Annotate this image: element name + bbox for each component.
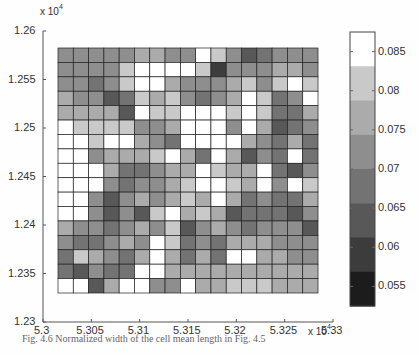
colorbar-segment (350, 101, 375, 136)
colorbar-tick-label: 0.08 (378, 84, 399, 96)
heatmap-cell (89, 235, 104, 249)
heatmap-cell (119, 134, 134, 148)
heatmap-cell (272, 235, 287, 249)
heatmap-cell (196, 235, 211, 249)
y-tick-label: 1.24 (14, 218, 35, 230)
heatmap-cell (150, 120, 165, 134)
heatmap-cell (211, 77, 226, 91)
heatmap-cell (226, 264, 241, 278)
heatmap-cell (287, 250, 302, 264)
heatmap-cell (165, 120, 180, 134)
heatmap-cell (242, 221, 257, 235)
heatmap-cell (150, 178, 165, 192)
heatmap-cell (180, 120, 195, 134)
heatmap-cell (287, 264, 302, 278)
heatmap-cell (104, 192, 119, 206)
heatmap-cell (165, 207, 180, 221)
colorbar-tick-label: 0.075 (378, 123, 406, 135)
heatmap-cell (211, 250, 226, 264)
y-tick-label: 1.245 (8, 170, 36, 182)
heatmap-cell (303, 149, 318, 163)
heatmap-cell (196, 91, 211, 105)
heatmap-cell (196, 264, 211, 278)
heatmap-cell (242, 62, 257, 76)
heatmap-cell (303, 250, 318, 264)
heatmap-cell (89, 106, 104, 120)
heatmap-cell (211, 134, 226, 148)
y-tick-label: 1.25 (14, 121, 35, 133)
heatmap-cell (257, 163, 272, 177)
heatmap-cell (180, 91, 195, 105)
heatmap-cell (272, 48, 287, 62)
heatmap-cell (211, 62, 226, 76)
heatmap-cell (165, 91, 180, 105)
heatmap-cell (104, 134, 119, 148)
heatmap-cell (287, 221, 302, 235)
heatmap-cell (89, 192, 104, 206)
heatmap-cell (196, 163, 211, 177)
heatmap-cell (150, 250, 165, 264)
heatmap-cell (303, 178, 318, 192)
heatmap-cell (119, 192, 134, 206)
heatmap-cell (119, 149, 134, 163)
heatmap-cell (226, 48, 241, 62)
heatmap-cell (119, 221, 134, 235)
heatmap-cell (104, 264, 119, 278)
heatmap-cell (287, 235, 302, 249)
heatmap-cell (73, 192, 88, 206)
heatmap-cell (119, 264, 134, 278)
heatmap-cell (73, 149, 88, 163)
heatmap-cell (104, 207, 119, 221)
colorbar (350, 32, 375, 307)
heatmap-cell (242, 134, 257, 148)
heatmap-cell (180, 163, 195, 177)
heatmap-cell (287, 120, 302, 134)
heatmap-cell (196, 106, 211, 120)
heatmap-cell (89, 77, 104, 91)
heatmap-cell (226, 250, 241, 264)
heatmap-cell (226, 178, 241, 192)
heatmap-cell (242, 207, 257, 221)
heatmap-cell (242, 106, 257, 120)
colorbar-segment (350, 135, 375, 170)
colorbar-tick-label: 0.085 (378, 45, 406, 57)
colorbar-segment (350, 32, 375, 67)
heatmap-cell (58, 250, 73, 264)
heatmap-cell (165, 250, 180, 264)
heatmap-cell (104, 163, 119, 177)
y-tick-label: 1.235 (8, 267, 36, 279)
heatmap-cell (150, 134, 165, 148)
y-tick-label: 1.26 (14, 24, 35, 36)
heatmap-cell (104, 62, 119, 76)
heatmap-cell (180, 106, 195, 120)
x-axis-multiplier: x 104 (308, 325, 331, 337)
heatmap-cell (211, 279, 226, 293)
heatmap-cell (287, 192, 302, 206)
heatmap-cell (165, 264, 180, 278)
heatmap-cell (73, 91, 88, 105)
colorbar-tick-label: 0.06 (378, 240, 399, 252)
colorbar-segment (350, 203, 375, 238)
heatmap-cell (257, 48, 272, 62)
heatmap-cell (165, 48, 180, 62)
heatmap-cell (226, 163, 241, 177)
heatmap-cell (104, 106, 119, 120)
heatmap-cell (180, 77, 195, 91)
heatmap-figure (0, 0, 419, 355)
heatmap-cell (89, 163, 104, 177)
heatmap-cell (134, 279, 149, 293)
heatmap-cell (226, 106, 241, 120)
heatmap-cell (226, 62, 241, 76)
heatmap-cell (119, 91, 134, 105)
heatmap-cell (257, 192, 272, 206)
heatmap-cell (150, 235, 165, 249)
heatmap-cell (58, 279, 73, 293)
heatmap-cell (89, 207, 104, 221)
heatmap-cell (104, 48, 119, 62)
heatmap-cell (165, 77, 180, 91)
heatmap-cell (257, 91, 272, 105)
heatmap-cell (272, 250, 287, 264)
heatmap-cell (242, 163, 257, 177)
heatmap-cell (119, 120, 134, 134)
colorbar-segment (350, 272, 375, 307)
